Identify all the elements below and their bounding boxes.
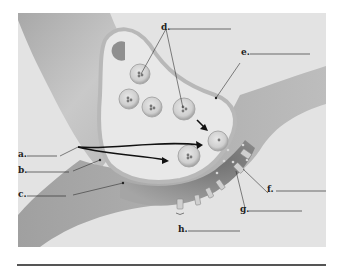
vesicle: [130, 64, 150, 84]
vesicle: [178, 145, 200, 167]
vesicle-fusing: [208, 131, 228, 151]
label-e-text: e.: [241, 47, 250, 57]
label-b-text: b.: [18, 165, 27, 175]
label-g-text: g.: [240, 204, 249, 214]
label-d-text: d.: [161, 22, 170, 32]
label-a-text: a.: [18, 149, 27, 159]
vesicle: [119, 89, 139, 109]
label-f-text: f.: [267, 184, 274, 194]
vesicle: [142, 97, 162, 117]
synapse-diagram: a. b. c. d. e. f. g. h.: [0, 0, 345, 266]
vesicle: [173, 98, 195, 120]
label-c-text: c.: [18, 189, 27, 199]
label-h-text: h.: [178, 224, 188, 234]
